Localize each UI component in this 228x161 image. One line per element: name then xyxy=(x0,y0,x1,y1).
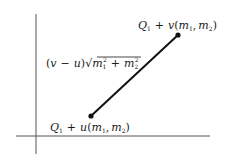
segment-start-label: Q1+u(m1,m2) xyxy=(50,121,130,134)
diagram-canvas: Q1+v(m1,m2) Q1+u(m1,m2) (v−u)√m12+m22 xyxy=(0,0,228,161)
segment-start-point xyxy=(88,113,93,118)
segment-end-label: Q1+v(m1,m2) xyxy=(138,19,217,32)
segment-line xyxy=(91,35,178,116)
segment-end-point xyxy=(175,32,180,37)
segment-length-label: (v−u)√m12+m22 xyxy=(46,56,139,70)
